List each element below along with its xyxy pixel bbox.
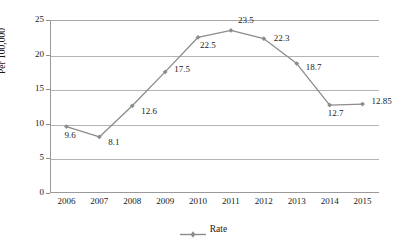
- x-tick-label: 2011: [215, 196, 248, 206]
- legend-label-rate: Rate: [210, 225, 227, 234]
- chart-legend: Rate: [0, 225, 407, 234]
- data-point-label: 12.85: [372, 96, 392, 106]
- x-tick-label: 2013: [280, 196, 313, 206]
- gridline: [51, 90, 379, 91]
- line-chart: Per 100,000 0510152025 20062007200820092…: [0, 0, 407, 252]
- x-tick-label: 2006: [50, 196, 83, 206]
- y-tick-label: 20: [24, 49, 44, 59]
- legend-marker-rate: [180, 225, 206, 234]
- data-point-label: 18.7: [306, 62, 322, 72]
- x-tick-label: 2008: [116, 196, 149, 206]
- gridline: [51, 125, 379, 126]
- gridline: [51, 159, 379, 160]
- y-tick-mark: [46, 193, 50, 194]
- data-point-label: 17.5: [174, 64, 190, 74]
- data-point-label: 12.6: [141, 106, 157, 116]
- y-tick-label: 5: [24, 152, 44, 162]
- data-point-label: 8.1: [108, 137, 119, 147]
- x-tick-label: 2007: [83, 196, 116, 206]
- data-point-label: 12.7: [328, 108, 344, 118]
- x-tick-label: 2014: [313, 196, 346, 206]
- x-tick-label: 2010: [182, 196, 215, 206]
- x-tick-label: 2009: [149, 196, 182, 206]
- y-tick-label: 25: [24, 14, 44, 24]
- y-tick-label: 10: [24, 118, 44, 128]
- y-tick-label: 15: [24, 83, 44, 93]
- gridline: [51, 56, 379, 57]
- y-axis-title: Per 100,000: [0, 28, 7, 74]
- data-point-label: 22.5: [200, 40, 216, 50]
- y-tick-label: 0: [24, 187, 44, 197]
- data-point-label: 9.6: [64, 130, 75, 140]
- data-point-label: 23.5: [238, 15, 254, 25]
- x-tick-label: 2012: [247, 196, 280, 206]
- data-point-label: 22.3: [274, 33, 290, 43]
- x-tick-label: 2015: [346, 196, 379, 206]
